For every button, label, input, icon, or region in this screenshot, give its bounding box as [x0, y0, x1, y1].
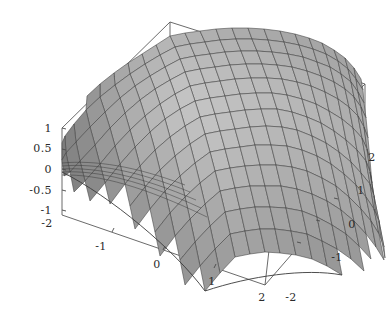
- y-tick-label: 1: [357, 185, 364, 196]
- x-tick-label: -1: [95, 241, 107, 252]
- y-tick-label: -2: [285, 292, 297, 303]
- x-tick-label: 0: [153, 259, 160, 270]
- x-tick-label: -2: [41, 218, 53, 229]
- y-tick-label: -1: [331, 252, 343, 263]
- x-tick-label: 2: [258, 292, 265, 303]
- z-tick-label: -1: [40, 205, 52, 216]
- y-tick-label: 0: [348, 219, 355, 230]
- surface-plot-canvas: [0, 0, 386, 325]
- z-tick-label: 0.5: [33, 143, 52, 154]
- y-tick-label: 2: [368, 152, 375, 163]
- z-tick-label: 0: [45, 164, 52, 175]
- z-tick-label: -0.5: [29, 185, 52, 196]
- x-tick-label: 1: [208, 276, 215, 287]
- z-tick-label: 1: [45, 123, 52, 134]
- surface-plot-figure: 1 0.5 0 -0.5 -1 -2 -1 0 1 2 -2 -1 0 1 2: [0, 0, 386, 325]
